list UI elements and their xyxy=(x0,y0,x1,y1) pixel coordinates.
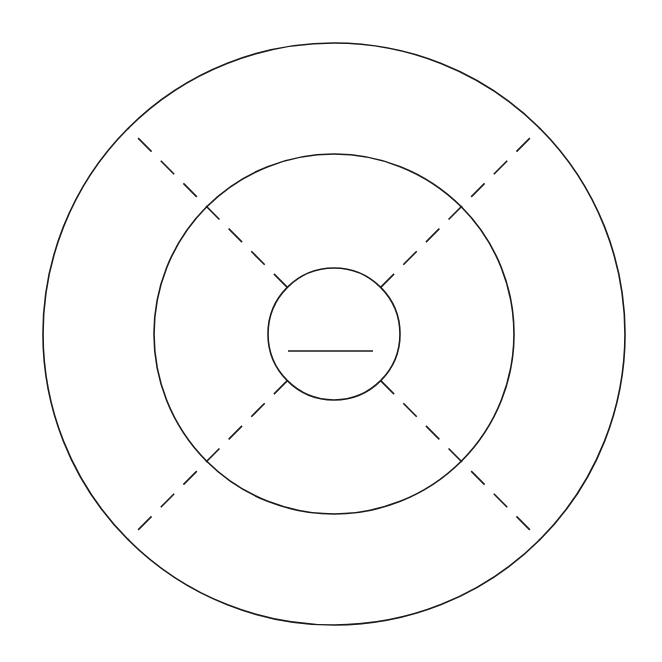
dashed-divider-225 xyxy=(128,128,287,287)
concentric-diagram xyxy=(0,0,662,662)
outer-ring xyxy=(43,43,625,625)
dashed-divider-135 xyxy=(128,381,287,540)
dashed-divider-315 xyxy=(381,128,540,287)
dashed-divider-45 xyxy=(381,381,540,540)
inner-circle xyxy=(268,268,400,400)
divider-group xyxy=(128,128,540,540)
circle-group xyxy=(43,43,625,625)
diagram-canvas xyxy=(0,0,662,662)
